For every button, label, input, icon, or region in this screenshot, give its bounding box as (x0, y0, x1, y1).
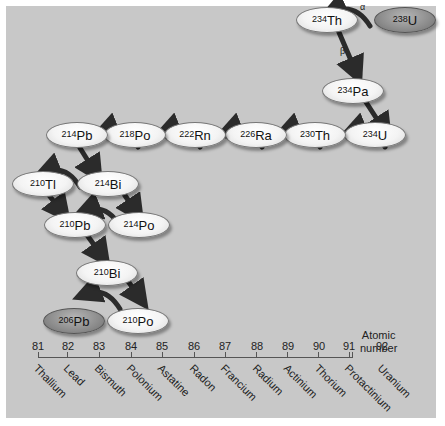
atomic-number-82: 82 (62, 340, 74, 352)
node-ra226: 226Ra (225, 122, 287, 148)
node-th234: 234Th (296, 7, 358, 33)
atomic-number-91: 91 (343, 340, 355, 352)
tick (352, 352, 353, 358)
node-u238: 238U (374, 7, 436, 33)
alpha-label: α (360, 2, 365, 12)
tick (38, 352, 39, 358)
node-rn222: 222Rn (164, 122, 226, 148)
atomic-number-92: 92 (376, 340, 388, 352)
tick (131, 352, 132, 358)
node-po214: 214Po (108, 212, 170, 238)
node-bi214: 214Bi (77, 171, 139, 197)
node-pb214: 214Pb (46, 122, 108, 148)
tick (194, 352, 195, 358)
atomic-number-90: 90 (313, 340, 325, 352)
node-po218: 218Po (104, 122, 166, 148)
atomic-number-axis (38, 357, 352, 358)
node-pa234: 234Pa (322, 78, 384, 104)
node-tl210: 210Tl (12, 171, 74, 197)
tick (287, 352, 288, 358)
beta-label: β (340, 46, 345, 56)
node-u234: 234U (344, 122, 406, 148)
atomic-number-87: 87 (219, 340, 231, 352)
atomic-number-86: 86 (188, 340, 200, 352)
node-bi210: 210Bi (76, 260, 138, 286)
tick (349, 352, 350, 358)
tick (67, 352, 68, 358)
tick (162, 352, 163, 358)
atomic-number-85: 85 (156, 340, 168, 352)
tick (225, 352, 226, 358)
node-pb206: 206Pb (43, 308, 105, 334)
tick (318, 352, 319, 358)
node-pb210: 210Pb (44, 212, 106, 238)
node-po210: 210Po (107, 308, 169, 334)
atomic-number-83: 83 (93, 340, 105, 352)
atomic-number-89: 89 (282, 340, 294, 352)
tick (256, 352, 257, 358)
atomic-number-84: 84 (125, 340, 137, 352)
node-th230: 230Th (284, 122, 346, 148)
atomic-number-88: 88 (251, 340, 263, 352)
atomic-number-81: 81 (32, 340, 44, 352)
tick (99, 352, 100, 358)
